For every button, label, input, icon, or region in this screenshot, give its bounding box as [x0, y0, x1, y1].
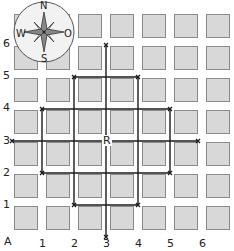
center-point-label: R — [102, 135, 112, 146]
x-label-1: 1 — [39, 238, 46, 249]
origin-label: A — [4, 236, 12, 247]
x-label-2: 2 — [71, 238, 78, 249]
x-label-5: 5 — [167, 238, 174, 249]
x-label-4: 4 — [135, 238, 142, 249]
y-label-4: 4 — [3, 102, 10, 113]
compass-north-label: N — [40, 0, 47, 11]
compass-rose-icon — [0, 0, 234, 251]
y-label-6: 6 — [3, 38, 10, 49]
y-label-1: 1 — [3, 199, 10, 210]
x-label-6: 6 — [199, 238, 206, 249]
x-label-3: 3 — [103, 238, 110, 249]
y-label-5: 5 — [3, 70, 10, 81]
y-label-2: 2 — [3, 167, 10, 178]
compass-east-label: O — [64, 28, 72, 39]
street-grid-map: N S W O 6 5 4 3 2 1 A 1 2 3 4 5 6 R — [0, 0, 234, 251]
y-label-3: 3 — [3, 135, 10, 146]
compass-south-label: S — [41, 53, 47, 64]
compass-west-label: W — [16, 28, 26, 39]
